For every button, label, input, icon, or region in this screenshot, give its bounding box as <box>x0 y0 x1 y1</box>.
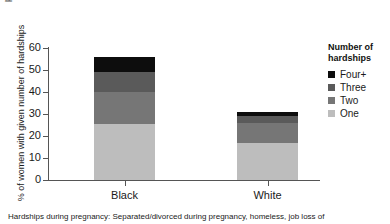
legend-item-one: One <box>328 107 390 119</box>
legend-label-fourplus: Four+ <box>340 69 366 80</box>
y-tick-label-wrap-30: 30 <box>0 108 41 119</box>
bar-segment-white-two <box>237 123 298 143</box>
legend-item-fourplus: Four+ <box>328 68 390 80</box>
legend-items: Four+ThreeTwoOne <box>328 68 390 119</box>
legend-label-one: One <box>340 108 359 119</box>
legend-swatch-three <box>328 84 335 91</box>
y-tick-50 <box>43 70 48 71</box>
y-tick-60 <box>43 48 48 49</box>
bar-black <box>94 48 155 180</box>
clipped-top-text-fragment: ps <box>2 0 12 2</box>
y-tick-label-10: 10 <box>1 152 41 163</box>
legend-title-line-2: hardships <box>328 53 390 64</box>
y-tick-0 <box>43 180 48 181</box>
x-axis-label-white: White <box>223 189 313 201</box>
y-tick-label-wrap-10: 10 <box>0 152 41 163</box>
y-tick-label-40: 40 <box>1 86 41 97</box>
y-tick-label-wrap-40: 40 <box>0 86 41 97</box>
bar-segment-white-three <box>237 116 298 123</box>
legend-swatch-fourplus <box>328 71 335 78</box>
y-tick-label-20: 20 <box>1 130 41 141</box>
legend: Number of hardships Four+ThreeTwoOne <box>328 42 390 120</box>
y-tick-40 <box>43 92 48 93</box>
x-axis-label-black: Black <box>80 189 170 201</box>
stacked-bar-chart: ps % of women with given number of hards… <box>0 0 390 224</box>
legend-title: Number of hardships <box>328 42 390 64</box>
x-tick-white <box>268 181 269 186</box>
legend-swatch-two <box>328 97 335 104</box>
bar-segment-black-one <box>94 124 155 180</box>
bar-segment-white-one <box>237 143 298 180</box>
legend-item-three: Three <box>328 81 390 93</box>
y-tick-label-0: 0 <box>1 174 41 185</box>
bar-segment-white-fourplus <box>237 112 298 116</box>
bar-segment-black-three <box>94 72 155 92</box>
y-tick-30 <box>43 114 48 115</box>
bar-segment-black-two <box>94 92 155 124</box>
bar-white <box>237 48 298 180</box>
y-tick-10 <box>43 158 48 159</box>
y-tick-label-30: 30 <box>1 108 41 119</box>
y-tick-label-wrap-50: 50 <box>0 64 41 75</box>
legend-item-two: Two <box>328 94 390 106</box>
figure-caption: Hardships during pregnancy: Separated/di… <box>8 212 388 222</box>
legend-swatch-one <box>328 110 335 117</box>
x-axis-line <box>48 180 320 181</box>
bar-segment-black-fourplus <box>94 57 155 72</box>
y-tick-label-wrap-0: 0 <box>0 174 41 185</box>
y-axis-line <box>48 47 49 181</box>
legend-label-two: Two <box>340 95 358 106</box>
y-tick-label-60: 60 <box>1 42 41 53</box>
x-tick-black <box>125 181 126 186</box>
y-tick-20 <box>43 136 48 137</box>
y-tick-label-wrap-20: 20 <box>0 130 41 141</box>
legend-label-three: Three <box>340 82 366 93</box>
y-tick-label-wrap-60: 60 <box>0 42 41 53</box>
legend-title-line-1: Number of <box>328 42 390 53</box>
y-tick-label-50: 50 <box>1 64 41 75</box>
